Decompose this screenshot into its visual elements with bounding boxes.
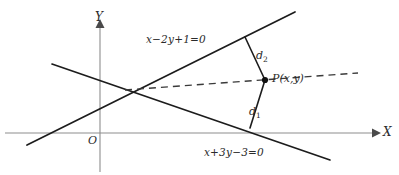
- x-axis-arrowhead: [372, 129, 381, 138]
- distance-label-d2-base: d: [256, 49, 263, 62]
- figure-canvas: [0, 0, 399, 175]
- x-axis-label: X: [383, 126, 392, 138]
- distance-label-d2-subscript: 2: [263, 55, 268, 64]
- line-x-minus-2y-plus-1: [27, 12, 295, 145]
- equation-label-upper: x−2y+1=0: [146, 34, 206, 45]
- point-p-marker: [262, 77, 268, 83]
- point-p-label: P(x,y): [272, 73, 304, 84]
- distance-label-d1-base: d: [249, 105, 256, 118]
- distance-label-d1: d1: [249, 106, 261, 120]
- equation-label-lower: x+3y−3=0: [204, 147, 264, 158]
- origin-label: O: [88, 135, 97, 146]
- geometry-figure: x−2y+1=0 x+3y−3=0 Y X O d2 d1 P(x,y): [0, 0, 399, 175]
- distance-segment-d1: [250, 80, 265, 128]
- distance-label-d2: d2: [256, 50, 268, 64]
- distance-label-d1-subscript: 1: [256, 111, 261, 120]
- angle-bisector-dashed-ray: [125, 73, 358, 90]
- y-axis-label: Y: [95, 11, 103, 23]
